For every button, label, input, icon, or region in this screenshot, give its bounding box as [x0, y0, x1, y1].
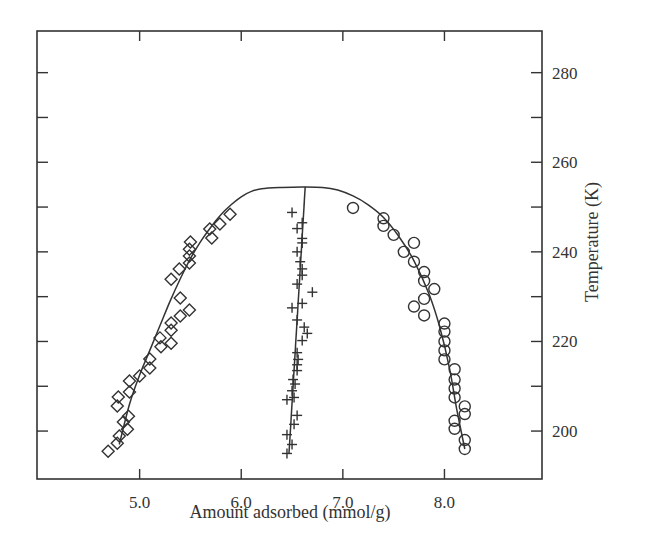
x-axis-title: Amount adsorbed (mmol/g)	[190, 502, 391, 523]
plus-marker	[292, 279, 302, 289]
circle-marker	[449, 364, 460, 375]
plus-marker	[287, 303, 297, 313]
plus-marker	[292, 224, 302, 234]
plus-marker	[292, 315, 302, 325]
plus-marker	[289, 392, 299, 402]
circle-marker	[419, 293, 430, 304]
diamond-marker	[102, 445, 114, 457]
circle-marker	[408, 237, 419, 248]
plus-marker	[282, 448, 292, 458]
x-tick-label: 5.0	[129, 493, 150, 512]
diamond-marker	[165, 324, 177, 336]
diamond-marker	[165, 273, 177, 285]
tick-labels: 5.06.07.08.0200220240260280	[129, 64, 577, 512]
y-tick-label: 280	[552, 64, 578, 83]
circle-marker	[408, 301, 419, 312]
circle-marker	[419, 310, 430, 321]
y-tick-label: 200	[552, 422, 578, 441]
diamond-marker	[144, 362, 156, 374]
diamond-marker	[174, 292, 186, 304]
circle-marker	[449, 423, 460, 434]
circle-marker	[429, 284, 440, 295]
circle-marker	[398, 246, 409, 257]
plus-marker	[288, 375, 298, 385]
plus-marker	[297, 218, 307, 228]
plus-marker	[292, 348, 302, 358]
plus-marker	[287, 207, 297, 217]
plus-marker	[292, 410, 302, 420]
circle-marker	[348, 202, 359, 213]
plus-marker	[297, 233, 307, 243]
plus-marker	[307, 287, 317, 297]
plus-marker	[297, 336, 307, 346]
diamond-marker	[165, 317, 177, 329]
y-tick-label: 220	[552, 332, 578, 351]
y-tick-label: 240	[552, 243, 578, 262]
phase-diagram-chart: 5.06.07.08.0200220240260280 Amount adsor…	[0, 0, 645, 557]
y-tick-label: 260	[552, 153, 578, 172]
x-tick-label: 8.0	[434, 493, 455, 512]
fit-curves	[119, 187, 465, 454]
plus-marker	[295, 257, 305, 267]
plus-marker	[282, 395, 292, 405]
plus-marker	[297, 264, 307, 274]
circle-marker	[378, 220, 389, 231]
plus-marker	[287, 440, 297, 450]
circle-marker	[459, 409, 470, 420]
y-axis-title: Temperature (K)	[582, 182, 603, 302]
